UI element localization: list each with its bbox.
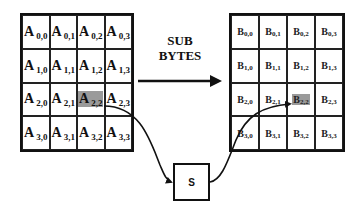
cell-b-0-2: B0,2: [287, 15, 315, 49]
highlight-marker: A2,2: [78, 91, 103, 107]
cell-letter: B: [237, 94, 244, 105]
cell-index: 1,2: [91, 65, 102, 75]
cell-letter: A: [52, 91, 62, 107]
cell-letter: B: [321, 26, 328, 37]
cell-letter: B: [237, 128, 244, 139]
cell-index: 0,0: [36, 31, 47, 41]
cell-letter: A: [107, 91, 117, 107]
cell-index: 0,2: [91, 31, 102, 41]
cell-index: 0,2: [300, 30, 309, 38]
cell-a-3-3: A3,3: [105, 116, 133, 150]
cell-index: 2,0: [244, 98, 253, 106]
cell-letter: B: [237, 60, 244, 71]
cell-a-3-0: A3,0: [22, 116, 50, 150]
cell-b-2-1: B2,1: [259, 83, 287, 117]
cell-index: 0,1: [64, 31, 75, 41]
cell-b-1-0: B1,0: [231, 49, 259, 83]
cell-index: 3,1: [272, 132, 281, 140]
cell-index: 2,1: [272, 98, 281, 106]
cell-a-2-0: A2,0: [22, 83, 50, 117]
cell-b-2-0: B2,0: [231, 83, 259, 117]
cell-letter: A: [79, 125, 89, 141]
cell-index: 2,2: [91, 98, 102, 108]
cell-letter: A: [52, 125, 62, 141]
cell-b-3-2: B3,2: [287, 116, 315, 150]
cell-a-1-2: A1,2: [77, 49, 105, 83]
cell-letter: B: [237, 26, 244, 37]
cell-a-1-3: A1,3: [105, 49, 133, 83]
cell-letter: A: [79, 58, 89, 74]
cell-index: 3,0: [244, 132, 253, 140]
cell-letter: A: [24, 58, 34, 74]
cell-a-0-0: A0,0: [22, 15, 50, 49]
cell-a-1-1: A1,1: [50, 49, 78, 83]
cell-b-1-3: B1,3: [315, 49, 343, 83]
cell-a-0-1: A0,1: [50, 15, 78, 49]
cell-index: 1,2: [300, 64, 309, 72]
cell-a-3-1: A3,1: [50, 116, 78, 150]
cell-letter: A: [79, 24, 89, 40]
cell-index: 2,3: [328, 98, 337, 106]
cell-a-0-2: A0,2: [77, 15, 105, 49]
cell-letter: A: [107, 24, 117, 40]
cell-letter: A: [107, 58, 117, 74]
cell-b-0-3: B0,3: [315, 15, 343, 49]
cell-letter: B: [265, 60, 272, 71]
cell-b-3-0: B3,0: [231, 116, 259, 150]
cell-letter: B: [265, 26, 272, 37]
cell-letter: B: [321, 94, 328, 105]
cell-letter: B: [293, 26, 300, 37]
cell-index: 2,2: [300, 98, 309, 106]
title-line-1: SUB: [140, 33, 220, 48]
cell-index: 3,1: [64, 132, 75, 142]
cell-b-1-1: B1,1: [259, 49, 287, 83]
title-line-2: BYTES: [140, 48, 220, 63]
s-box: S: [173, 163, 210, 201]
s-box-label: S: [188, 177, 195, 188]
cell-letter: A: [52, 24, 62, 40]
cell-b-0-1: B0,1: [259, 15, 287, 49]
output-matrix-b: B0,0 B0,1 B0,2 B0,3 B1,0 B1,1 B1,2 B1,3 …: [229, 13, 345, 152]
cell-letter: B: [321, 128, 328, 139]
cell-index: 2,1: [64, 98, 75, 108]
cell-b-0-0: B0,0: [231, 15, 259, 49]
cell-index: 2,3: [119, 98, 130, 108]
cell-letter: A: [52, 58, 62, 74]
cell-b-1-2: B1,2: [287, 49, 315, 83]
cell-a-3-2: A3,2: [77, 116, 105, 150]
cell-letter: B: [293, 60, 300, 71]
cell-b-2-2-highlighted: B2,2: [287, 83, 315, 117]
cell-index: 2,0: [36, 98, 47, 108]
cell-index: 1,0: [244, 64, 253, 72]
cell-letter: A: [79, 91, 89, 107]
cell-index: 1,0: [36, 65, 47, 75]
cell-b-2-3: B2,3: [315, 83, 343, 117]
cell-letter: B: [265, 128, 272, 139]
highlight-marker: B2,2: [292, 94, 309, 105]
cell-index: 1,1: [64, 65, 75, 75]
cell-b-3-3: B3,3: [315, 116, 343, 150]
cell-index: 3,3: [119, 132, 130, 142]
cell-letter: B: [265, 94, 272, 105]
cell-index: 0,0: [244, 30, 253, 38]
cell-index: 0,3: [328, 30, 337, 38]
sub-bytes-arrow-icon: [138, 75, 222, 87]
cell-index: 3,0: [36, 132, 47, 142]
cell-letter: B: [293, 94, 300, 105]
cell-letter: A: [24, 125, 34, 141]
state-matrix-a: A0,0 A0,1 A0,2 A0,3 A1,0 A1,1 A1,2 A1,3 …: [20, 13, 134, 152]
cell-index: 0,3: [119, 31, 130, 41]
cell-index: 1,3: [119, 65, 130, 75]
cell-a-2-1: A2,1: [50, 83, 78, 117]
cell-a-0-3: A0,3: [105, 15, 133, 49]
cell-letter: A: [24, 91, 34, 107]
cell-index: 3,3: [328, 132, 337, 140]
cell-letter: A: [107, 125, 117, 141]
cell-index: 0,1: [272, 30, 281, 38]
cell-index: 1,3: [328, 64, 337, 72]
cell-letter: B: [321, 60, 328, 71]
cell-a-2-3: A2,3: [105, 83, 133, 117]
cell-b-3-1: B3,1: [259, 116, 287, 150]
cell-index: 3,2: [300, 132, 309, 140]
cell-a-2-2-highlighted: A2,2: [77, 83, 105, 117]
